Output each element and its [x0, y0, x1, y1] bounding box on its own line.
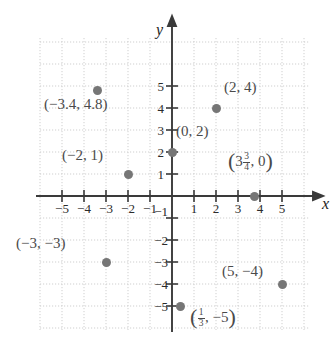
point-label-layer: (−3.4, 4.8) (2, 4) (0, 2) (−2, 1) (334, …	[0, 0, 336, 355]
close-paren: )	[229, 308, 236, 326]
point-label-neg2-1: (−2, 1)	[62, 148, 103, 163]
mixed-whole-part: 3	[235, 153, 243, 169]
close-paren: )	[266, 152, 273, 170]
fraction-denominator: 3	[198, 318, 205, 329]
fraction-one-third: 13	[198, 308, 205, 329]
fraction-numerator: 1	[198, 308, 205, 318]
fraction-numerator: 3	[243, 152, 250, 162]
point-label-neg3.4-4.8: (−3.4, 4.8)	[44, 97, 107, 112]
mixed-tail-part: , 0	[251, 153, 266, 169]
point-label-onethird-neg5: (13, −5)	[190, 306, 236, 329]
fraction-three-fourths: 34	[243, 152, 250, 173]
fraction-tail-part: , −5	[205, 309, 228, 325]
point-label-0-2: (0, 2)	[176, 124, 209, 139]
point-label-3.75-0: (334, 0)	[228, 150, 273, 173]
point-label-neg3-neg3: (−3, −3)	[16, 236, 65, 251]
coordinate-plane-figure: y x −5 −4 −3 −2 −1 1 2 3 4 5 5 4 3 2 1 −…	[0, 0, 336, 355]
point-label-5-neg4: (5, −4)	[222, 264, 263, 279]
fraction-denominator: 4	[243, 162, 250, 173]
open-paren: (	[228, 152, 235, 170]
open-paren: (	[190, 308, 197, 326]
point-label-2-4: (2, 4)	[224, 80, 257, 95]
